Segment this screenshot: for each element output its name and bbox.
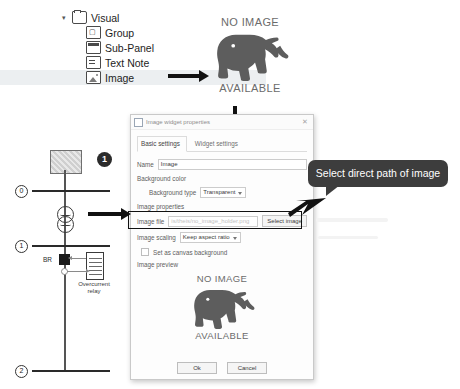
canvas-background-checkbox[interactable]	[141, 248, 149, 256]
tree-item-label: Group	[105, 27, 134, 39]
close-icon[interactable]: ✕	[300, 118, 310, 126]
dialog-footer: Ok Cancel	[131, 362, 313, 374]
text-note-icon	[86, 56, 101, 69]
generator-icon	[50, 150, 82, 174]
cancel-button[interactable]: Cancel	[227, 362, 267, 374]
folder-icon	[72, 11, 87, 24]
dialog-tabs: Basic settings Widget settings	[137, 136, 307, 152]
sub-panel-icon	[86, 41, 101, 54]
background-type-select[interactable]: Transparent	[200, 187, 246, 198]
image-scaling-select[interactable]: Keep aspect ratio	[180, 232, 241, 243]
image-widget-properties-dialog: Image widget properties ✕ Basic settings…	[130, 114, 314, 380]
bus-1	[32, 245, 110, 247]
bus-0	[32, 190, 110, 192]
background-type-row: Background type Transparent	[137, 187, 307, 198]
trip-signal-link	[72, 258, 86, 259]
no-image-line1: NO IMAGE	[195, 16, 305, 28]
chevron-down-icon[interactable]: ▾	[62, 14, 72, 21]
transformer-icon	[57, 216, 74, 233]
image-preview-placeholder: NO IMAGE AVAILABLE	[137, 273, 307, 341]
tab-basic-settings[interactable]: Basic settings	[137, 136, 187, 152]
image-properties-section-label: Image properties	[137, 203, 307, 210]
ct-signal-link	[67, 271, 86, 272]
dialog-title: Image widget properties	[146, 119, 300, 125]
name-row: Name Image	[137, 159, 307, 170]
name-label: Name	[137, 161, 154, 168]
image-icon	[86, 71, 101, 84]
tree-item-label: Text Note	[105, 57, 149, 69]
single-line-diagram: 0 1 BR Overcurrent relay 2	[10, 150, 130, 370]
dialog-title-bar: Image widget properties ✕	[131, 115, 313, 130]
name-input[interactable]: Image	[158, 159, 307, 170]
no-image-placeholder-top: NO IMAGE AVAILABLE	[195, 16, 305, 94]
preview-line2: AVAILABLE	[137, 330, 307, 341]
image-widget-icon	[134, 118, 143, 127]
scan-artifact	[316, 218, 388, 222]
bus-0-label: 0	[15, 185, 28, 198]
elephant-icon	[208, 29, 292, 81]
no-image-line2: AVAILABLE	[195, 82, 305, 94]
ok-button[interactable]: Ok	[177, 362, 217, 374]
breaker-label: BR	[43, 256, 52, 263]
callout-text: Select direct path of image	[308, 160, 448, 187]
background-type-label: Background type	[149, 189, 196, 196]
tree-item-label: Visual	[91, 12, 119, 24]
callout-tail	[326, 185, 340, 196]
arrow-diagram-to-dialog	[88, 212, 122, 216]
step-badge-1: 1	[97, 152, 112, 167]
image-preview-label: Image preview	[137, 261, 307, 268]
callout-select-direct-path: Select direct path of image	[308, 160, 448, 187]
canvas-background-label: Set as canvas background	[153, 249, 227, 256]
bus-1-label: 1	[15, 240, 28, 253]
tree-item-sub-panel[interactable]: Sub-Panel	[62, 40, 172, 55]
bus-2	[32, 370, 110, 372]
tree-item-label: Image	[105, 72, 134, 84]
image-scaling-label: Image scaling	[137, 234, 176, 241]
background-color-section-label: Background color	[137, 175, 307, 182]
preview-line1: NO IMAGE	[137, 273, 307, 284]
image-scaling-row: Image scaling Keep aspect ratio	[137, 232, 307, 243]
scan-artifact	[318, 236, 378, 239]
group-icon: ▢	[86, 26, 101, 39]
tree-item-label: Sub-Panel	[105, 42, 154, 54]
image-file-highlight-box	[128, 211, 302, 229]
overcurrent-relay-icon	[86, 252, 104, 280]
tree-item-group[interactable]: ▢ Group	[62, 25, 172, 40]
visual-tree-panel: ▾ Visual ▢ Group Sub-Panel Text Note Ima…	[62, 10, 172, 85]
elephant-icon	[186, 285, 258, 329]
tab-widget-settings[interactable]: Widget settings	[191, 136, 245, 151]
canvas-background-row[interactable]: Set as canvas background	[141, 248, 307, 256]
relay-label: Overcurrent relay	[77, 281, 111, 295]
tree-item-visual[interactable]: ▾ Visual	[62, 10, 172, 25]
bus-2-label: 2	[15, 365, 28, 378]
tree-item-text-note[interactable]: Text Note	[62, 55, 172, 70]
